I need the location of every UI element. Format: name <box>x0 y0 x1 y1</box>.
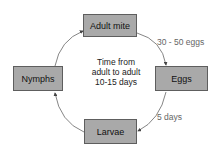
stage-label: Adult mite <box>90 21 130 31</box>
edge-label-duration: 5 days <box>157 112 182 122</box>
center-line: 10-15 days <box>80 77 152 87</box>
center-line: adult to adult <box>80 67 152 77</box>
center-line: Time from <box>80 57 152 67</box>
arrow-nymphs-to-adult <box>55 31 83 66</box>
edge-label-eggs-count: 30 - 50 eggs <box>157 37 204 47</box>
stage-nymphs: Nymphs <box>13 66 63 91</box>
cycle-duration-text: Time from adult to adult 10-15 days <box>80 57 152 87</box>
stage-eggs: Eggs <box>155 66 208 91</box>
arrow-larvae-to-nymphs <box>55 93 84 132</box>
stage-label: Eggs <box>171 74 192 84</box>
stage-label: Nymphs <box>21 74 54 84</box>
stage-label: Larvae <box>97 127 125 137</box>
stage-adult-mite: Adult mite <box>83 14 137 37</box>
stage-larvae: Larvae <box>84 119 137 144</box>
